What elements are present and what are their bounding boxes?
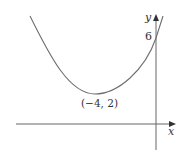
y-intercept-label: 6 bbox=[145, 30, 152, 43]
vertex-label: (−4, 2) bbox=[81, 97, 118, 109]
parabola-curve bbox=[30, 16, 163, 94]
y-axis-label: y bbox=[144, 11, 152, 24]
x-axis-label: x bbox=[168, 125, 175, 138]
graph: y 6 (−4, 2) x bbox=[0, 0, 186, 154]
y-axis-arrow-icon bbox=[153, 14, 159, 21]
